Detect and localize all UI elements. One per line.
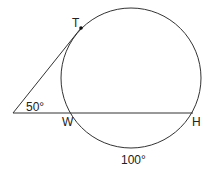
angle-label-50: 50° (26, 100, 44, 114)
arc-label-100: 100° (121, 153, 146, 167)
point-t-dot (79, 26, 83, 30)
tangent-line (13, 28, 81, 113)
label-t: T (72, 16, 80, 30)
label-w: W (62, 115, 74, 129)
circle-diagram: T W H 50° 100° (0, 0, 211, 170)
label-h: H (192, 115, 201, 129)
